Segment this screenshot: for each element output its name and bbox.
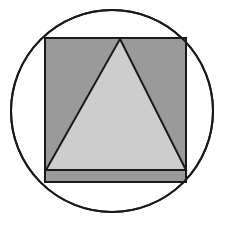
figure-canvas: [0, 0, 236, 228]
geometric-figure: [0, 0, 236, 228]
